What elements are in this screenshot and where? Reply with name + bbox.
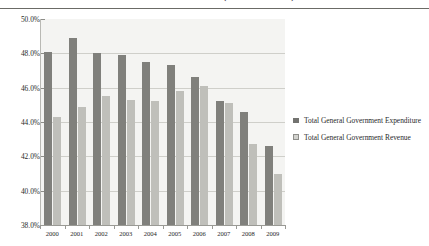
bar-expenditure-2005 <box>167 65 175 225</box>
bar-group <box>90 19 115 225</box>
x-axis-tick-mark <box>285 225 286 229</box>
bar-revenue-2002 <box>102 96 110 225</box>
bar-expenditure-2003 <box>118 55 126 225</box>
title-divider <box>0 8 429 9</box>
x-axis-tick-mark <box>212 225 213 229</box>
x-axis-tick-mark <box>138 225 139 229</box>
x-axis-tick-mark <box>236 225 237 229</box>
bar-revenue-2003 <box>127 100 135 225</box>
legend-item-expenditure: Total General Government Expenditure <box>293 116 425 126</box>
x-axis-tick-mark <box>89 225 90 229</box>
x-axis-tick-mark <box>114 225 115 229</box>
bar-expenditure-2002 <box>93 53 101 225</box>
bar-expenditure-2008 <box>240 112 248 225</box>
x-axis-tick-mark <box>163 225 164 229</box>
bar-revenue-2000 <box>53 117 61 225</box>
y-axis-tick-label: 46.0% <box>6 83 40 92</box>
bar-group <box>66 19 91 225</box>
legend-label-revenue: Total General Government Revenue <box>304 133 425 143</box>
bar-revenue-2009 <box>274 174 282 226</box>
x-axis-tick-mark <box>187 225 188 229</box>
y-axis-tick-label: 40.0% <box>6 186 40 195</box>
y-axis-tick-label: 44.0% <box>6 118 40 127</box>
chart-title: and Deficits 2000–09 (Percent of GDP) <box>0 0 429 2</box>
plot-area <box>40 19 285 225</box>
bar-expenditure-2007 <box>216 101 224 225</box>
bar-expenditure-2006 <box>191 77 199 225</box>
chart-figure: and Deficits 2000–09 (Percent of GDP) 38… <box>0 0 429 246</box>
x-axis-tick-mark <box>40 225 41 229</box>
bar-expenditure-2004 <box>142 62 150 225</box>
bar-group <box>188 19 213 225</box>
y-axis-tick-label: 42.0% <box>6 152 40 161</box>
bar-group <box>41 19 66 225</box>
bar-group <box>164 19 189 225</box>
bar-revenue-2004 <box>151 101 159 225</box>
x-axis-tick-mark <box>261 225 262 229</box>
legend-item-revenue: Total General Government Revenue <box>293 133 425 143</box>
bar-revenue-2006 <box>200 86 208 225</box>
bar-group <box>237 19 262 225</box>
y-axis-tick-label: 50.0% <box>6 15 40 24</box>
x-axis-tick-label-2009: 2009 <box>258 230 288 237</box>
bar-revenue-2007 <box>225 103 233 225</box>
y-axis-tick-label: 38.0% <box>6 221 40 230</box>
legend-swatch-expenditure-icon <box>293 118 299 124</box>
y-axis-tick-label: 48.0% <box>6 49 40 58</box>
bar-group <box>262 19 287 225</box>
bar-revenue-2008 <box>249 144 257 225</box>
legend-label-expenditure: Total General Government Expenditure <box>304 116 425 126</box>
bar-revenue-2005 <box>176 91 184 225</box>
bar-group <box>139 19 164 225</box>
bar-expenditure-2000 <box>44 52 52 225</box>
bar-group <box>115 19 140 225</box>
chart-legend: Total General Government Expenditure Tot… <box>293 116 425 149</box>
x-axis-tick-mark <box>65 225 66 229</box>
y-axis: 38.0%40.0%42.0%44.0%46.0%48.0%50.0% <box>0 19 40 225</box>
bar-group <box>213 19 238 225</box>
bar-expenditure-2001 <box>69 38 77 225</box>
legend-swatch-revenue-icon <box>293 134 299 140</box>
bar-expenditure-2009 <box>265 146 273 225</box>
bar-revenue-2001 <box>78 107 86 225</box>
